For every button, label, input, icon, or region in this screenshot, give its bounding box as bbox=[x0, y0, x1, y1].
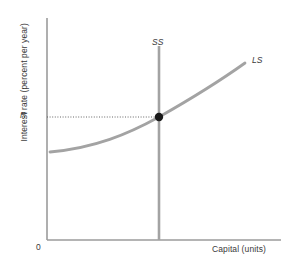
capital-market-equilibrium-chart: Interest rate (percent per year) Capital… bbox=[0, 0, 282, 274]
x-axis-title: Capital (units) bbox=[212, 245, 266, 254]
demand-curve-label-ls: LS bbox=[252, 56, 262, 65]
equilibrium-point-marker bbox=[155, 113, 163, 121]
chart-plot-area bbox=[0, 0, 282, 274]
y-axis-title: Interest rate (percent per year) bbox=[20, 12, 29, 152]
demand-curve-ls bbox=[50, 63, 245, 152]
equilibrium-rate-label: R bbox=[20, 111, 26, 120]
origin-label: 0 bbox=[36, 243, 41, 252]
supply-curve-label-ss: SS bbox=[152, 38, 163, 47]
